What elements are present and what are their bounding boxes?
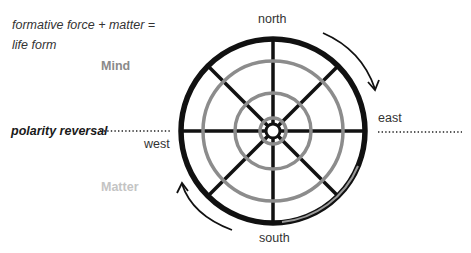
mind-label: Mind	[101, 59, 130, 73]
polarity-reversal-label: polarity reversal	[11, 124, 108, 138]
west-label: west	[144, 137, 170, 151]
north-label: north	[258, 12, 287, 26]
hub-circle	[266, 124, 280, 138]
south-label: south	[259, 231, 290, 245]
east-label: east	[378, 111, 402, 125]
matter-label: Matter	[101, 180, 139, 194]
outer-ring-gray-trace	[282, 166, 358, 222]
formula-line-2: life form	[12, 35, 155, 55]
formula-line-1: formative force + matter =	[12, 15, 155, 35]
formula-text: formative force + matter = life form	[12, 15, 155, 55]
